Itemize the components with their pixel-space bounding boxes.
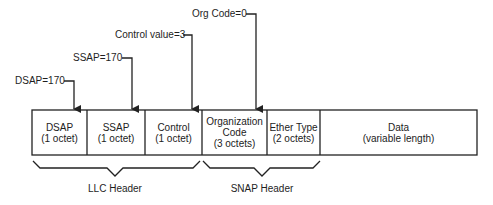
field-name: Ether Type (269, 122, 317, 133)
field-name-line2: Code (206, 127, 263, 138)
field-name: DSAP (41, 122, 78, 133)
field-organization-code: Organization Code (3 octets) (202, 110, 267, 155)
field-size: (2 octets) (269, 133, 317, 144)
dsap-arrow (64, 81, 74, 109)
field-size: (3 octets) (206, 138, 263, 149)
field-size: (1 octet) (155, 133, 192, 144)
org-code-arrow (246, 14, 256, 109)
field-size: (variable length) (363, 133, 435, 144)
field-name: Control (155, 122, 192, 133)
field-size: (1 octet) (41, 133, 78, 144)
field-data: Data (variable length) (320, 110, 477, 155)
field-name: Organization (206, 116, 263, 127)
field-name: Data (363, 122, 435, 133)
org-code-annotation: Org Code=0 (192, 8, 247, 19)
ssap-arrow (122, 58, 132, 109)
llc-brace (33, 161, 200, 176)
control-arrow (183, 35, 192, 109)
field-size: (1 octet) (98, 133, 135, 144)
control-annotation: Control value=3 (115, 29, 185, 40)
snap-header-label: SNAP Header (212, 183, 312, 194)
field-ether-type: Ether Type (2 octets) (267, 110, 320, 155)
diagram-lines (0, 0, 493, 205)
dsap-annotation: DSAP=170 (15, 75, 65, 86)
field-name: SSAP (98, 122, 135, 133)
field-dsap: DSAP (1 octet) (32, 110, 87, 155)
snap-brace (203, 161, 320, 176)
field-control: Control (1 octet) (145, 110, 202, 155)
field-ssap: SSAP (1 octet) (87, 110, 145, 155)
llc-header-label: LLC Header (65, 183, 165, 194)
ssap-annotation: SSAP=170 (73, 52, 122, 63)
